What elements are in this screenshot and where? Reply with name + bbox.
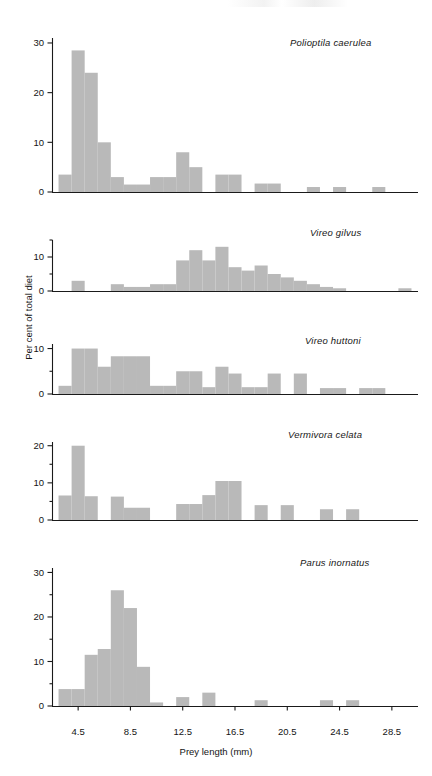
- x-axis-tick-label: 4.5: [72, 726, 85, 737]
- histogram-bar: [72, 446, 85, 520]
- histogram-bar: [255, 184, 268, 192]
- histogram-bar: [98, 142, 111, 192]
- y-axis-tick-label: 10: [33, 343, 44, 354]
- figure-prey-length-distributions: Per cent of total diet 0102030 Polioptil…: [0, 0, 432, 776]
- histogram-bar: [359, 388, 372, 394]
- histogram-bar: [346, 700, 359, 706]
- bar-series: [59, 446, 360, 520]
- histogram-bar: [111, 590, 124, 706]
- histogram-bar: [281, 505, 294, 520]
- histogram-bar: [268, 274, 281, 291]
- histogram-bar: [255, 266, 268, 292]
- species-label-vermivora-celata: Vermivora celata: [288, 429, 362, 440]
- histogram-bar: [124, 608, 137, 706]
- histogram-bar: [111, 177, 124, 192]
- histogram-bar: [72, 50, 85, 192]
- histogram-bar: [137, 185, 150, 192]
- histogram-bar: [307, 284, 320, 291]
- y-axis-tick-label: 0: [39, 285, 44, 296]
- plot-area-vireo-huttoni: 010: [0, 326, 432, 420]
- histogram-bar: [176, 260, 189, 291]
- histogram-bar: [228, 175, 241, 192]
- y-axis-tick-label: 0: [39, 514, 44, 525]
- histogram-bar: [333, 187, 346, 192]
- species-label-vireo-huttoni: Vireo huttoni: [305, 335, 361, 346]
- y-axis-tick-label: 10: [33, 137, 44, 148]
- histogram-bar: [372, 388, 385, 394]
- histogram-bar: [268, 184, 281, 192]
- y-axis-tick-label: 20: [33, 440, 44, 451]
- histogram-bar: [85, 496, 98, 520]
- x-axis-label: Prey length (mm): [0, 746, 432, 757]
- histogram-bar: [85, 349, 98, 394]
- y-axis-tick-label: 20: [33, 87, 44, 98]
- histogram-bar: [228, 374, 241, 394]
- bar-series: [59, 590, 360, 706]
- histogram-bar: [255, 700, 268, 706]
- histogram-bar: [281, 277, 294, 291]
- histogram-bar: [111, 497, 124, 520]
- bar-series: [59, 50, 386, 192]
- histogram-bar: [176, 152, 189, 192]
- x-axis-tick-label: 8.5: [124, 726, 137, 737]
- histogram-bar: [215, 175, 228, 192]
- histogram-bar: [111, 356, 124, 394]
- histogram-bar: [176, 697, 189, 706]
- histogram-bar: [163, 386, 176, 394]
- histogram-bar: [202, 387, 215, 394]
- histogram-bar: [268, 374, 281, 394]
- histogram-bar: [346, 509, 359, 520]
- histogram-bar: [215, 367, 228, 394]
- histogram-bar: [137, 287, 150, 291]
- y-axis-tick-label: 0: [39, 700, 44, 711]
- y-axis-tick-label: 10: [33, 251, 44, 262]
- histogram-bar: [176, 504, 189, 520]
- histogram-bar: [59, 495, 72, 520]
- histogram-bar: [59, 386, 72, 394]
- histogram-bar: [98, 367, 111, 394]
- bar-series: [59, 349, 386, 394]
- x-axis-tick-labels: 4.58.512.516.520.524.528.5: [0, 726, 432, 742]
- histogram-bar: [372, 187, 385, 192]
- histogram-bar: [124, 185, 137, 192]
- histogram-bar: [320, 287, 333, 291]
- plot-area-vireo-gilvus: 010: [0, 218, 432, 314]
- histogram-bar: [85, 73, 98, 192]
- histogram-bar: [307, 187, 320, 192]
- x-axis-tick-label: 16.5: [226, 726, 245, 737]
- histogram-bar: [59, 689, 72, 706]
- y-axis-tick-label: 0: [39, 186, 44, 197]
- histogram-bar: [189, 504, 202, 520]
- histogram-bar: [124, 508, 137, 520]
- histogram-bar: [189, 167, 202, 192]
- x-axis-tick-label: 28.5: [383, 726, 402, 737]
- histogram-bar: [320, 388, 333, 394]
- histogram-bar: [124, 356, 137, 394]
- y-axis-tick-label: 30: [33, 567, 44, 578]
- histogram-bar: [124, 287, 137, 291]
- histogram-bar: [215, 247, 228, 291]
- histogram-bar: [137, 508, 150, 520]
- histogram-bar: [189, 371, 202, 394]
- histogram-bar: [72, 689, 85, 706]
- histogram-bar: [150, 177, 163, 192]
- histogram-bar: [202, 693, 215, 706]
- histogram-bar: [333, 288, 346, 291]
- histogram-bar: [202, 260, 215, 291]
- species-label-polioptila-caerulea: Polioptila caerulea: [290, 37, 371, 48]
- panel-vermivora-celata: 01020 Vermivora celata: [0, 424, 432, 536]
- x-axis-tick-label: 24.5: [330, 726, 349, 737]
- histogram-bar: [59, 175, 72, 192]
- histogram-bar: [255, 387, 268, 394]
- y-axis-tick-label: 0: [39, 388, 44, 399]
- histogram-bar: [72, 281, 85, 291]
- histogram-bar: [150, 702, 163, 706]
- histogram-bar: [72, 349, 85, 394]
- y-axis-tick-label: 10: [33, 477, 44, 488]
- histogram-bar: [202, 495, 215, 520]
- panel-parus-inornatus: 0102030 Parus inornatus: [0, 548, 432, 726]
- histogram-bar: [398, 288, 411, 291]
- histogram-bar: [320, 700, 333, 706]
- plot-area-parus-inornatus: 0102030: [0, 548, 432, 726]
- histogram-bar: [228, 267, 241, 291]
